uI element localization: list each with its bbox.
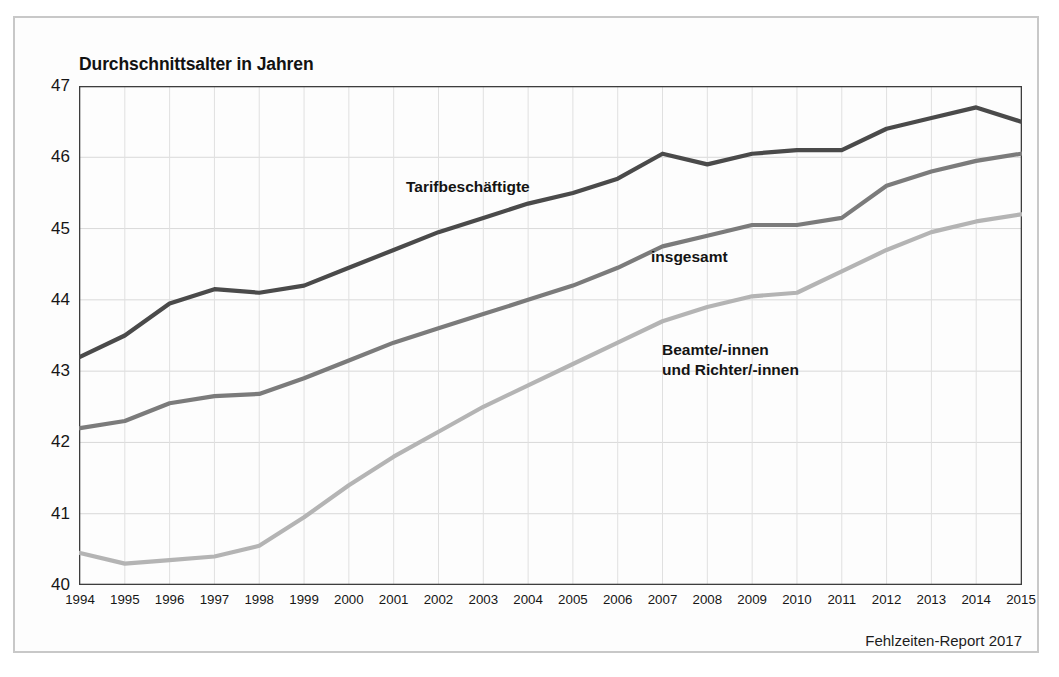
x-tick-label: 2008 xyxy=(693,592,723,607)
x-tick-label: 2003 xyxy=(468,592,498,607)
x-tick-label: 2001 xyxy=(379,592,409,607)
y-tick-label: 46 xyxy=(51,147,70,167)
x-tick-label: 2004 xyxy=(513,592,543,607)
x-tick-label: 1999 xyxy=(289,592,319,607)
x-tick-label: 2000 xyxy=(334,592,364,607)
x-tick-label: 2013 xyxy=(917,592,947,607)
x-tick-label: 2015 xyxy=(1006,592,1036,607)
chart-title: Durchschnittsalter in Jahren xyxy=(79,54,313,75)
y-tick-label: 41 xyxy=(51,504,70,524)
line-chart-svg xyxy=(79,86,1022,585)
y-tick-label: 47 xyxy=(51,76,70,96)
series-label-insgesamt: insgesamt xyxy=(651,247,728,267)
x-tick-label: 2005 xyxy=(558,592,588,607)
x-tick-label: 2011 xyxy=(827,592,856,607)
chart-figure: Durchschnittsalter in Jahren 40414243444… xyxy=(0,0,1059,677)
x-tick-label: 2002 xyxy=(424,592,454,607)
y-tick-label: 45 xyxy=(51,219,70,239)
x-tick-label: 1997 xyxy=(200,592,230,607)
source-note: Fehlzeiten-Report 2017 xyxy=(865,632,1022,649)
x-tick-label: 2010 xyxy=(782,592,812,607)
plot-area xyxy=(79,86,1022,585)
series-paths xyxy=(80,107,1021,563)
y-tick-label: 42 xyxy=(51,432,70,452)
x-tick-label: 2007 xyxy=(648,592,678,607)
gridlines xyxy=(79,86,1022,585)
y-tick-label: 44 xyxy=(51,290,70,310)
y-axis-tick-labels: 4041424344454647 xyxy=(38,86,70,585)
x-tick-label: 1994 xyxy=(65,592,95,607)
series-line-2 xyxy=(80,214,1021,563)
x-tick-label: 2009 xyxy=(737,592,767,607)
x-tick-label: 2014 xyxy=(961,592,991,607)
y-tick-label: 43 xyxy=(51,361,70,381)
plot-frame xyxy=(80,87,1022,585)
x-tick-label: 2012 xyxy=(872,592,902,607)
x-tick-label: 1995 xyxy=(110,592,140,607)
series-label-tarifbeschaeftigte: Tarifbeschäftigte xyxy=(406,177,530,197)
x-tick-label: 1998 xyxy=(244,592,274,607)
x-tick-label: 1996 xyxy=(155,592,185,607)
series-label-beamte-richter: Beamte/-innen und Richter/-innen xyxy=(662,340,799,380)
series-line-0 xyxy=(80,107,1021,357)
x-axis-tick-labels: 1994199519961997199819992000200120022003… xyxy=(79,592,1022,614)
x-tick-label: 2006 xyxy=(603,592,633,607)
